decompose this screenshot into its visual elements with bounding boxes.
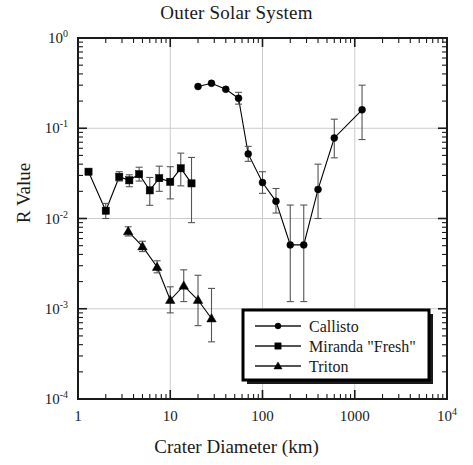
svg-text:100: 100: [251, 408, 274, 424]
legend-label: Triton: [309, 358, 348, 375]
svg-text:10-3: 10-3: [45, 299, 68, 317]
series-miranda-fresh: [85, 153, 195, 222]
svg-text:10-4: 10-4: [45, 389, 68, 407]
plot-area: 110100100010410010-110-210-310-4 Callist…: [0, 0, 473, 465]
series-callisto: [195, 80, 366, 302]
svg-text:104: 104: [437, 406, 457, 424]
svg-text:10-2: 10-2: [45, 209, 68, 227]
chart-figure: Outer Solar System R Value Crater Diamet…: [0, 0, 473, 465]
legend-label: Callisto: [309, 318, 359, 335]
data-series-layer: [85, 80, 366, 342]
svg-text:1: 1: [74, 408, 82, 424]
svg-text:10: 10: [163, 408, 178, 424]
svg-text:10-1: 10-1: [45, 118, 68, 136]
legend-label: Miranda "Fresh": [309, 338, 416, 355]
svg-text:100: 100: [48, 28, 68, 46]
svg-text:1000: 1000: [340, 408, 370, 424]
chart-legend[interactable]: CallistoMiranda "Fresh"Triton: [243, 310, 433, 384]
